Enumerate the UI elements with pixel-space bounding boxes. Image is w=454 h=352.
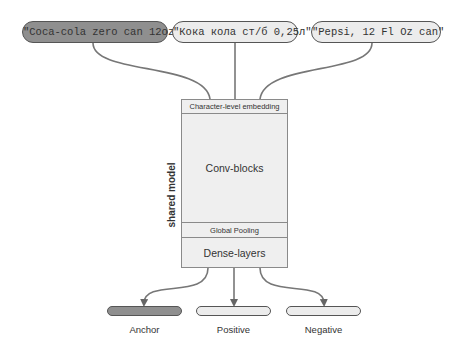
shared-model-label: shared model [165, 150, 179, 240]
layer-global-pooling: Global Pooling [182, 223, 287, 238]
layer-conv-blocks: Conv-blocks [182, 114, 287, 223]
output-label-anchor: Anchor [107, 324, 182, 335]
output-embedding-anchor [107, 306, 182, 316]
output-wire-negative [260, 268, 324, 303]
shared-model-box: Character-level embedding Conv-blocks Gl… [181, 99, 288, 268]
input-wire-negative [260, 43, 372, 99]
layer-character-embedding: Character-level embedding [182, 100, 287, 114]
output-label-negative: Negative [286, 324, 361, 335]
input-pill-positive: "Кока кола ст/б 0,25л" [172, 21, 298, 43]
input-pill-negative: "Pepsi, 12 Fl Oz can" [311, 21, 441, 43]
output-embedding-negative [286, 306, 361, 316]
output-wire-anchor [144, 268, 208, 303]
output-embedding-positive [196, 306, 271, 316]
input-pill-anchor: "Coca-cola zero can 12oz" [22, 21, 168, 43]
output-label-positive: Positive [196, 324, 271, 335]
layer-dense: Dense-layers [182, 238, 287, 268]
input-wire-anchor [93, 43, 210, 99]
